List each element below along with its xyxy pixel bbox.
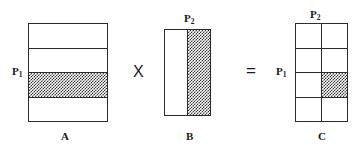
matrix-a-row-4 xyxy=(29,98,107,122)
matrix-b-caption: B xyxy=(186,131,194,142)
matrix-c-row-label-base: P xyxy=(276,65,283,77)
matrix-c-row-label-p1: P1 xyxy=(276,66,286,77)
matrix-a-cell-1-1 xyxy=(29,24,107,48)
matrix-c-cell-1-2 xyxy=(322,24,347,48)
matrix-a-row-label-sub: 1 xyxy=(19,70,23,79)
matrix-c-caption: C xyxy=(318,131,326,142)
equals-operator: = xyxy=(246,62,256,79)
matrix-c-cell-3-1 xyxy=(296,73,322,97)
matrix-b-cell-1-2-shaded xyxy=(188,30,210,115)
matrix-c-row-label-sub: 1 xyxy=(283,70,287,79)
multiplication-operator: X xyxy=(133,64,144,80)
matrix-a-row-label-p1: P1 xyxy=(12,66,22,77)
matrix-b-col-label-sub: 2 xyxy=(191,17,195,26)
matrix-b-col-label-p2: P2 xyxy=(184,13,194,24)
matrix-c-cell-4-1 xyxy=(296,98,322,122)
matrix-c-col-label-sub: 2 xyxy=(317,13,321,22)
matrix-a-row-1 xyxy=(29,24,107,49)
matrix-a-row-label-base: P xyxy=(12,65,19,77)
matrix-c-row-1 xyxy=(296,24,347,49)
matrix-b xyxy=(164,29,211,116)
matrix-c-col-label-p2: P2 xyxy=(310,9,320,20)
matrix-c xyxy=(295,23,348,122)
matrix-a-caption: A xyxy=(61,131,69,142)
matrix-c-cell-4-2 xyxy=(322,98,347,122)
matrix-a-cell-2-1 xyxy=(29,49,107,73)
matrix-a xyxy=(28,23,108,122)
matrix-a-row-3 xyxy=(29,73,107,98)
matrix-c-row-3 xyxy=(296,73,347,98)
matrix-multiplication-figure: P1 A X P2 B = P1 P2 C xyxy=(0,0,358,152)
matrix-c-cell-3-2-shaded xyxy=(322,73,347,97)
matrix-a-row-2 xyxy=(29,49,107,74)
matrix-b-col-label-base: P xyxy=(184,12,191,24)
matrix-c-cell-2-1 xyxy=(296,49,322,73)
matrix-c-row-2 xyxy=(296,49,347,74)
matrix-a-cell-3-1-shaded xyxy=(29,73,107,97)
matrix-b-cell-1-1 xyxy=(165,30,188,115)
matrix-a-cell-4-1 xyxy=(29,98,107,122)
matrix-c-row-4 xyxy=(296,98,347,122)
matrix-c-cell-2-2 xyxy=(322,49,347,73)
matrix-c-col-label-base: P xyxy=(310,8,317,20)
matrix-c-cell-1-1 xyxy=(296,24,322,48)
